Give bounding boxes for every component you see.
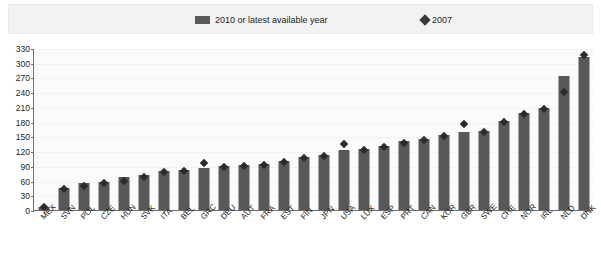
bar (399, 141, 410, 210)
y-axis-tick-label: 180 (0, 118, 30, 127)
bar-group (94, 49, 114, 210)
bar (279, 161, 290, 210)
bar-group (474, 49, 494, 210)
bar (199, 168, 210, 210)
bar-group (434, 49, 454, 210)
chart-legend: 2010 or latest available year 2007 (8, 4, 593, 34)
plot-area (34, 49, 593, 210)
diamond-icon (419, 14, 430, 25)
y-axis-tick-label: 330 (0, 45, 30, 54)
bar-group (554, 49, 574, 210)
bar (439, 135, 450, 210)
bar-group (454, 49, 474, 210)
bar (379, 146, 390, 210)
bar-group (154, 49, 174, 210)
bar-group (114, 49, 134, 210)
bar (179, 170, 190, 210)
bar (319, 155, 330, 210)
y-axis-tick-label: 210 (0, 103, 30, 112)
bar (339, 150, 350, 210)
bar-group (274, 49, 294, 210)
bar (419, 139, 430, 210)
y-axis-tick-label: 300 (0, 59, 30, 68)
bar-group (174, 49, 194, 210)
legend-item-2007: 2007 (421, 13, 452, 27)
bar (299, 157, 310, 210)
plot-frame (33, 49, 593, 211)
bar-group (74, 49, 94, 210)
data-point-marker (200, 159, 208, 167)
legend-label: 2007 (432, 15, 452, 25)
bar-group (314, 49, 334, 210)
bar-group (534, 49, 554, 210)
bar (579, 57, 590, 210)
bar-group (574, 49, 594, 210)
y-axis-tick-label: 30 (0, 192, 30, 201)
bar-group (234, 49, 254, 210)
bar (499, 121, 510, 210)
legend-label: 2010 or latest available year (215, 15, 328, 25)
bar-group (54, 49, 74, 210)
bar-group (514, 49, 534, 210)
bar (559, 76, 570, 210)
bar (459, 132, 470, 210)
bar-group (34, 49, 54, 210)
chart-figure: 2010 or latest available year 2007 03060… (0, 0, 601, 261)
bar-group (394, 49, 414, 210)
bar-group (214, 49, 234, 210)
x-axis: MEXSVNPOLCZEHUNSVKITABELGRCDEUAUTFRAESTF… (33, 212, 593, 260)
y-axis: 0306090120150180210240270300330 (0, 49, 30, 211)
y-axis-tick-label: 270 (0, 74, 30, 83)
bar (239, 165, 250, 210)
bar (479, 131, 490, 210)
y-axis-tick-label: 60 (0, 177, 30, 186)
bar-group (334, 49, 354, 210)
y-axis-tick-label: 90 (0, 162, 30, 171)
bar-group (294, 49, 314, 210)
bar-swatch-icon (195, 16, 210, 24)
bar-group (254, 49, 274, 210)
bar-group (374, 49, 394, 210)
bar (259, 164, 270, 210)
bar (359, 149, 370, 210)
bar-group (134, 49, 154, 210)
y-axis-tick-label: 0 (0, 207, 30, 216)
legend-item-2010: 2010 or latest available year (195, 13, 328, 27)
bar-group (494, 49, 514, 210)
y-axis-tick-label: 150 (0, 133, 30, 142)
bar (519, 113, 530, 210)
bar (219, 166, 230, 210)
bar-group (194, 49, 214, 210)
bar (539, 108, 550, 210)
bar-group (414, 49, 434, 210)
data-point-marker (460, 120, 468, 128)
y-axis-tick-label: 240 (0, 89, 30, 98)
bar-group (354, 49, 374, 210)
y-axis-tick-label: 120 (0, 148, 30, 157)
data-point-marker (340, 139, 348, 147)
bar (159, 171, 170, 210)
